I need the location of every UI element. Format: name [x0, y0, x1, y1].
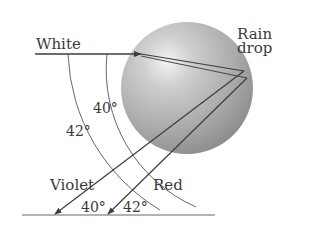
label-violet: Violet — [50, 178, 94, 193]
label-raindrop-line2: drop — [237, 41, 272, 55]
raindrop-sphere — [121, 22, 253, 154]
label-arc-42: 42° — [66, 124, 91, 138]
label-arc-40: 40° — [93, 101, 118, 115]
label-raindrop: Rain drop — [237, 27, 272, 56]
label-angle-violet: 40° — [81, 200, 106, 214]
label-angle-red: 42° — [123, 200, 148, 214]
label-red: Red — [153, 178, 183, 193]
label-white: White — [36, 37, 81, 52]
